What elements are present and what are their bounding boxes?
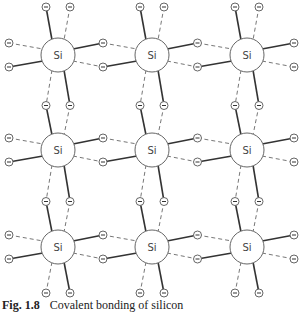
bond-line-dashed	[46, 262, 52, 293]
bond-line-dashed	[46, 165, 52, 202]
bond-line-dashed	[262, 156, 294, 162]
bond-line-solid	[73, 138, 103, 144]
bond-line-dashed	[198, 43, 233, 49]
caption-text: Covalent bonding of silicon	[50, 298, 184, 312]
atom-label: Si	[242, 145, 251, 156]
bond-line-dashed	[167, 61, 198, 67]
bond-line-dashed	[198, 235, 233, 241]
bond-line-dashed	[198, 138, 233, 144]
bond-line-dashed	[167, 156, 198, 162]
bond-line-dashed	[140, 165, 146, 202]
bond-line-solid	[262, 235, 294, 241]
bond-line-dashed	[103, 43, 137, 49]
atom-label: Si	[53, 50, 62, 61]
bond-line-dashed	[253, 7, 259, 40]
atom-label: Si	[242, 242, 251, 253]
bond-line-dashed	[158, 106, 164, 136]
atom-label: Si	[147, 50, 156, 61]
bond-line-dashed	[9, 235, 43, 241]
bond-line-dashed	[253, 106, 259, 136]
bond-line-dashed	[140, 262, 146, 293]
bond-line-solid	[262, 138, 294, 144]
bond-line-solid	[198, 61, 233, 67]
bond-line-solid	[253, 70, 259, 106]
bond-line-solid	[198, 156, 233, 162]
atom-label: Si	[53, 145, 62, 156]
bond-line-dashed	[235, 165, 241, 202]
bond-line-dashed	[235, 262, 241, 293]
bond-line-dashed	[140, 70, 146, 106]
bond-line-dashed	[73, 156, 103, 162]
atom-label: Si	[53, 242, 62, 253]
bond-line-dashed	[103, 235, 137, 241]
bond-line-solid	[253, 262, 259, 293]
bond-line-solid	[46, 106, 52, 136]
bond-line-solid	[140, 106, 146, 136]
bond-line-dashed	[253, 202, 259, 233]
bond-line-dashed	[103, 138, 137, 144]
bond-line-solid	[46, 7, 52, 40]
bond-line-solid	[235, 202, 241, 233]
bond-line-dashed	[64, 106, 70, 136]
bond-line-solid	[262, 43, 294, 49]
bond-line-solid	[140, 7, 146, 40]
figure-number: Fig. 1.8	[2, 298, 40, 312]
bond-line-solid	[64, 70, 70, 106]
bond-line-dashed	[167, 253, 198, 259]
bond-line-solid	[158, 70, 164, 106]
bond-line-solid	[140, 202, 146, 233]
silicon-lattice-diagram: SiSiSiSiSiSiSiSiSi	[0, 0, 303, 300]
bond-line-dashed	[158, 7, 164, 40]
bond-line-solid	[235, 7, 241, 40]
bond-line-dashed	[9, 43, 43, 49]
bond-line-dashed	[262, 61, 294, 67]
bond-line-dashed	[73, 253, 103, 259]
bond-line-dashed	[9, 138, 43, 144]
bond-line-solid	[9, 61, 43, 67]
atom-label: Si	[147, 242, 156, 253]
bond-line-solid	[198, 253, 233, 259]
bond-line-solid	[103, 61, 137, 67]
bond-line-solid	[158, 165, 164, 202]
bond-line-solid	[253, 165, 259, 202]
bond-line-solid	[167, 235, 198, 241]
bond-line-solid	[9, 253, 43, 259]
bond-line-dashed	[73, 61, 103, 67]
bond-line-solid	[9, 156, 43, 162]
bond-line-solid	[64, 165, 70, 202]
bond-line-dashed	[262, 253, 294, 259]
bond-line-dashed	[158, 202, 164, 233]
bond-line-solid	[46, 202, 52, 233]
atom-label: Si	[147, 145, 156, 156]
bond-line-dashed	[46, 70, 52, 106]
bond-line-solid	[167, 138, 198, 144]
bond-line-solid	[167, 43, 198, 49]
bond-line-solid	[158, 262, 164, 293]
figure-caption: Fig. 1.8Covalent bonding of silicon	[2, 298, 183, 313]
bond-line-solid	[64, 262, 70, 293]
bond-line-solid	[103, 156, 137, 162]
bond-line-dashed	[235, 70, 241, 106]
bond-line-solid	[73, 235, 103, 241]
bond-line-solid	[235, 106, 241, 136]
bond-line-dashed	[64, 7, 70, 40]
atom-label: Si	[242, 50, 251, 61]
bond-line-solid	[103, 253, 137, 259]
bond-line-dashed	[64, 202, 70, 233]
bond-line-solid	[73, 43, 103, 49]
